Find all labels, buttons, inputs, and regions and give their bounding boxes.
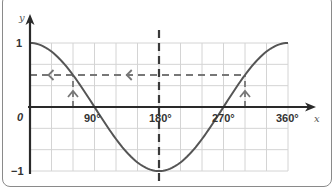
tick-origin: 0 [17,111,24,123]
tick-x-270: 270° [212,112,235,124]
x-axis-label: x [314,113,320,124]
tick-x-180: 180° [149,112,172,124]
y-axis-label: y [18,12,25,23]
tick-y-minus-1: −1 [11,165,24,177]
tick-x-90: 90° [84,112,101,124]
tick-y-1: 1 [16,37,22,49]
tick-x-360: 360° [276,112,299,124]
